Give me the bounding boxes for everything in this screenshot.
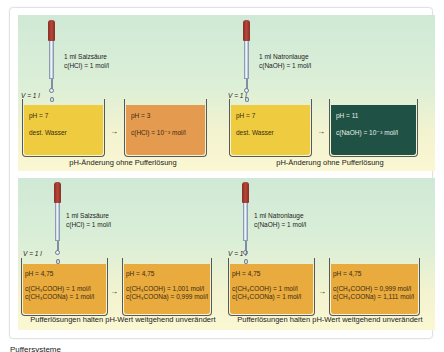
ph-value: pH = 4,75 (25, 270, 53, 278)
volume-label: V = 1 l (23, 250, 42, 257)
arrow-icon: → (110, 288, 118, 296)
reagent-label: 1 ml Natronlauge c(NaOH) = 1 mol/l (254, 211, 306, 229)
ph-value: pH = 4,75 (126, 270, 154, 278)
panel-caption: pH-Änderung ohne Pufferlösung (225, 158, 435, 167)
reagent-name: 1 ml Natronlauge (254, 211, 306, 220)
panel-caption: pH-Änderung ohne Pufferlösung (18, 158, 228, 167)
panel-caption: Pufferlösungen halten pH-Wert weitgehend… (18, 315, 228, 324)
ph-value: pH = 11 (336, 112, 358, 120)
panel-hcl-water: 1 ml Salzsäure c(HCl) = 1 mol/l V = 1 l … (18, 15, 228, 171)
concentration-label: c(NaOH) = 10⁻³ mol/l (336, 129, 398, 137)
arrow-icon: → (110, 128, 118, 136)
reagent-name: 1 ml Salzsäure (66, 211, 111, 220)
acid-concentration: c(CH₃COOH) = 1,001 mol/l (126, 285, 204, 293)
volume-label: V = 1 l (228, 92, 247, 99)
salt-concentration: c(CH₃COONa) = 1 mol/l (25, 293, 94, 301)
solution-label: dest. Wasser (236, 129, 274, 137)
beaker-after: pH = 3 c(HCl) = 10⁻³ mol/l (124, 99, 207, 157)
volume-label: V = 1 l (21, 92, 40, 99)
reagent-concentration: c(HCl) = 1 mol/l (66, 220, 111, 229)
beaker-before: pH = 7 dest. Wasser (229, 99, 312, 157)
arrow-icon: → (318, 288, 326, 296)
reagent-name: 1 ml Natronlauge (259, 52, 311, 61)
reagent-label: 1 ml Natronlauge c(NaOH) = 1 mol/l (259, 52, 311, 70)
reagent-label: 1 ml Salzsäure c(HCl) = 1 mol/l (66, 211, 111, 229)
figure-footer: Puffersysteme (10, 344, 61, 352)
reagent-label: 1 ml Salzsäure c(HCl) = 1 mol/l (64, 52, 109, 70)
arrow-icon: → (317, 128, 325, 136)
beaker-after: pH = 11 c(NaOH) = 10⁻³ mol/l (329, 99, 418, 157)
panel-hcl-buffer: 1 ml Salzsäure c(HCl) = 1 mol/l V = 1 l … (18, 178, 228, 330)
beaker-before: pH = 4,75 c(CH₃COOH) = 1 mol/l c(CH₃COON… (228, 258, 315, 316)
concentration-label: c(HCl) = 10⁻³ mol/l (131, 129, 186, 137)
salt-concentration: c(CH₃COONa) = 1,111 mol/l (333, 293, 414, 301)
acid-concentration: c(CH₃COOH) = 1 mol/l (232, 285, 298, 293)
beaker-after: pH = 4,75 c(CH₃COOH) = 1,001 mol/l c(CH₃… (122, 258, 212, 316)
panel-naoh-water: 1 ml Natronlauge c(NaOH) = 1 mol/l V = 1… (225, 15, 435, 171)
volume-label: V = 1 l (228, 250, 247, 257)
ph-value: pH = 4,75 (232, 270, 260, 278)
panel-naoh-buffer: 1 ml Natronlauge c(NaOH) = 1 mol/l V = 1… (225, 178, 435, 330)
reagent-concentration: c(HCl) = 1 mol/l (64, 61, 109, 70)
ph-value: pH = 7 (236, 112, 255, 120)
reagent-concentration: c(NaOH) = 1 mol/l (254, 220, 306, 229)
reagent-concentration: c(NaOH) = 1 mol/l (259, 61, 311, 70)
ph-value: pH = 4,75 (333, 270, 361, 278)
ph-value: pH = 7 (29, 112, 48, 120)
ph-value: pH = 3 (131, 112, 150, 120)
salt-concentration: c(CH₃COONa) = 1 mol/l (232, 293, 301, 301)
beaker-before: pH = 7 dest. Wasser (22, 99, 105, 157)
panel-caption: Pufferlösungen halten pH-Wert weitgehend… (225, 315, 435, 324)
beaker-after: pH = 4,75 c(CH₃COOH) = 0,999 mol/l c(CH₃… (329, 258, 420, 316)
salt-concentration: c(CH₃COONa) = 0,999 mol/l (126, 293, 208, 301)
acid-concentration: c(CH₃COOH) = 0,999 mol/l (333, 285, 411, 293)
acid-concentration: c(CH₃COOH) = 1 mol/l (25, 285, 91, 293)
reagent-name: 1 ml Salzsäure (64, 52, 109, 61)
solution-label: dest. Wasser (29, 129, 67, 137)
beaker-before: pH = 4,75 c(CH₃COOH) = 1 mol/l c(CH₃COON… (21, 258, 108, 316)
